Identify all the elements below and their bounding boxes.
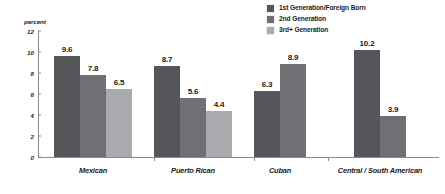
bar-column[interactable]: 4.4 — [206, 31, 232, 157]
bar-value-label: 10.2 — [360, 39, 375, 48]
bar-value-label: 6.5 — [114, 78, 125, 87]
y-axis-tick-label: 10 — [27, 49, 38, 56]
bar-value-label: 3.9 — [388, 105, 399, 114]
y-axis-tick-mark — [38, 73, 41, 74]
y-axis-tick-mark — [38, 52, 41, 53]
legend-item-2nd-generation: 2nd Generation — [266, 14, 442, 24]
bar-group: 9.67.86.5 — [54, 31, 132, 157]
y-axis-tick-label: 12 — [27, 28, 38, 35]
bar-column[interactable]: 9.6 — [54, 31, 80, 157]
y-axis-tick-label: 4 — [31, 112, 38, 119]
bar[interactable] — [154, 66, 180, 157]
bar-value-label: 8.9 — [288, 53, 299, 62]
bar[interactable] — [180, 98, 206, 157]
bar-value-label: 5.6 — [188, 87, 199, 96]
bar-column[interactable]: 8.7 — [154, 31, 180, 157]
y-axis-tick-label: 2 — [31, 133, 38, 140]
bar-group-bars: 10.23.9 — [354, 31, 406, 157]
legend-item-1st-generation: 1st Generation/Foreign Born — [266, 3, 442, 13]
y-axis-tick-label: 0 — [31, 154, 38, 161]
bar[interactable] — [380, 116, 406, 157]
bar[interactable] — [280, 64, 306, 157]
bar[interactable] — [106, 89, 132, 157]
y-axis-tick-label: 8 — [31, 70, 38, 77]
bar-group: 6.38.9 — [254, 31, 306, 157]
bar-column[interactable]: 6.3 — [254, 31, 280, 157]
bar-group-bars: 8.75.64.4 — [154, 31, 232, 157]
bar-value-label: 9.6 — [62, 45, 73, 54]
bar-value-label: 4.4 — [214, 100, 225, 109]
legend-label-2nd-generation: 2nd Generation — [279, 15, 326, 23]
x-axis-category-label: Mexican — [79, 166, 107, 175]
x-axis-category-label: Puerto Rican — [171, 166, 215, 175]
bar-column[interactable]: 5.6 — [180, 31, 206, 157]
bar-value-label: 6.3 — [262, 80, 273, 89]
bar[interactable] — [254, 91, 280, 157]
bar-group-bars: 9.67.86.5 — [54, 31, 132, 157]
x-axis-group-separator — [328, 157, 329, 161]
y-axis-tick-mark — [38, 94, 41, 95]
y-axis-title: percent — [24, 18, 46, 25]
legend-swatch-icon-1st-generation — [266, 4, 275, 13]
x-axis-category-label: Central / South American — [338, 166, 422, 175]
x-axis-group-separator — [254, 157, 255, 161]
bar[interactable] — [54, 56, 80, 157]
x-axis-category-label: Cuban — [269, 166, 291, 175]
bar-column[interactable]: 10.2 — [354, 31, 380, 157]
bar-column[interactable]: 7.8 — [80, 31, 106, 157]
bar-column[interactable]: 6.5 — [106, 31, 132, 157]
bar-value-label: 7.8 — [88, 64, 99, 73]
y-axis-tick-mark — [38, 31, 41, 32]
bar-group-bars: 6.38.9 — [254, 31, 306, 157]
bar[interactable] — [354, 50, 380, 157]
bar-value-label: 8.7 — [162, 55, 173, 64]
bar-column[interactable]: 8.9 — [280, 31, 306, 157]
bar[interactable] — [80, 75, 106, 157]
x-axis-line — [38, 157, 439, 158]
bar-group: 8.75.64.4 — [154, 31, 232, 157]
y-axis-tick-mark — [38, 136, 41, 137]
bar-group: 10.23.9 — [354, 31, 406, 157]
bar[interactable] — [206, 111, 232, 157]
plot-area: 121086420 9.67.86.58.75.64.46.38.910.23.… — [38, 31, 438, 157]
bar-column[interactable]: 3.9 — [380, 31, 406, 157]
legend-label-1st-generation: 1st Generation/Foreign Born — [279, 4, 366, 12]
legend-swatch-icon-2nd-generation — [266, 15, 275, 24]
x-axis-group-separator — [154, 157, 155, 161]
y-axis-tick-mark — [38, 115, 41, 116]
y-axis-tick-mark — [38, 157, 41, 158]
y-axis-tick-label: 6 — [31, 91, 38, 98]
bar-chart: 1st Generation/Foreign Born 2nd Generati… — [0, 0, 445, 194]
